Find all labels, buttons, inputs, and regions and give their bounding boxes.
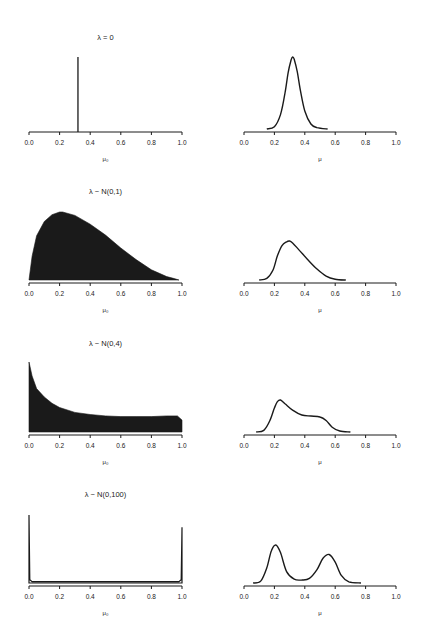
x-tick-label: 0.8 [361,593,370,600]
x-tick-label: 1.0 [177,593,186,600]
x-tick-label: 0.4 [300,442,309,449]
x-tick-label: 0.6 [116,290,125,297]
panel-row1-left: λ = 00.00.20.40.60.81.0μ₀ [24,33,186,162]
x-axis: 0.00.20.40.60.81.0μ [239,132,400,162]
x-tick-label: 0.4 [86,290,95,297]
density-curve [267,57,328,129]
x-tick-label: 0.6 [116,593,125,600]
panel-row4-left: λ ~ N(0,100)0.00.20.40.60.81.0μ₀ [24,490,186,616]
x-axis-label: μ [318,156,322,162]
x-tick-label: 0.6 [331,442,340,449]
x-axis-label: μ [318,459,322,465]
x-tick-label: 0.0 [24,593,33,600]
x-tick-label: 1.0 [391,442,400,449]
x-axis-label: μ₀ [103,459,109,465]
x-tick-label: 0.4 [86,593,95,600]
panel-row4-right: 0.00.20.40.60.81.0μ [239,545,400,616]
x-tick-label: 0.6 [331,593,340,600]
x-tick-label: 0.8 [361,139,370,146]
x-tick-label: 0.0 [24,139,33,146]
x-tick-label: 0.0 [239,139,248,146]
x-axis-label: μ₀ [103,307,109,313]
histogram-fill [29,362,182,432]
x-tick-label: 0.8 [361,290,370,297]
x-tick-label: 0.6 [116,139,125,146]
panel-title: λ ~ N(0,4) [89,339,123,348]
density-curve [253,545,361,583]
x-tick-label: 0.4 [300,290,309,297]
histogram-fill [29,212,179,280]
x-tick-label: 0.0 [239,593,248,600]
x-tick-label: 0.2 [55,593,64,600]
x-tick-label: 0.8 [361,442,370,449]
x-tick-label: 1.0 [177,139,186,146]
x-tick-label: 0.2 [270,593,279,600]
x-tick-label: 0.0 [239,442,248,449]
panel-title: λ ~ N(0,100) [85,490,127,499]
x-axis-label: μ₀ [103,610,109,616]
x-tick-label: 0.4 [86,139,95,146]
panel-row2-left: λ ~ N(0,1)0.00.20.40.60.81.0μ₀ [24,187,186,313]
x-tick-label: 0.2 [270,290,279,297]
x-tick-label: 0.4 [86,442,95,449]
x-axis: 0.00.20.40.60.81.0μ₀ [24,132,186,162]
density-curve [256,400,350,432]
panel-title: λ ~ N(0,1) [89,187,123,196]
x-axis: 0.00.20.40.60.81.0μ [239,283,400,313]
x-tick-label: 1.0 [391,139,400,146]
x-tick-label: 1.0 [177,442,186,449]
panel-row3-right: 0.00.20.40.60.81.0μ [239,400,400,465]
x-tick-label: 0.8 [147,290,156,297]
x-tick-label: 1.0 [391,593,400,600]
x-tick-label: 0.2 [55,139,64,146]
x-tick-label: 0.2 [55,442,64,449]
x-tick-label: 0.0 [24,442,33,449]
x-tick-label: 0.6 [331,290,340,297]
x-axis: 0.00.20.40.60.81.0μ₀ [24,283,186,313]
x-tick-label: 0.8 [147,593,156,600]
x-axis-label: μ₀ [103,156,109,162]
panel-title: λ = 0 [97,33,113,42]
x-tick-label: 0.2 [55,290,64,297]
x-axis: 0.00.20.40.60.81.0μ₀ [24,586,186,616]
x-axis: 0.00.20.40.60.81.0μ [239,586,400,616]
x-tick-label: 0.6 [331,139,340,146]
histogram-fill [29,515,182,583]
x-tick-label: 1.0 [177,290,186,297]
x-tick-label: 0.4 [300,139,309,146]
x-axis-label: μ [318,610,322,616]
figure: λ = 00.00.20.40.60.81.0μ₀0.00.20.40.60.8… [0,0,424,644]
x-tick-label: 0.4 [300,593,309,600]
panel-row1-right: 0.00.20.40.60.81.0μ [239,57,400,162]
x-axis: 0.00.20.40.60.81.0μ [239,435,400,465]
x-axis: 0.00.20.40.60.81.0μ₀ [24,435,186,465]
x-tick-label: 0.0 [239,290,248,297]
panel-row3-left: λ ~ N(0,4)0.00.20.40.60.81.0μ₀ [24,339,186,465]
x-axis-label: μ [318,307,322,313]
x-tick-label: 0.2 [270,442,279,449]
chart-grid: λ = 00.00.20.40.60.81.0μ₀0.00.20.40.60.8… [0,0,424,644]
x-tick-label: 0.8 [147,139,156,146]
x-tick-label: 1.0 [391,290,400,297]
panel-row2-right: 0.00.20.40.60.81.0μ [239,241,400,313]
x-tick-label: 0.0 [24,290,33,297]
x-tick-label: 0.2 [270,139,279,146]
x-tick-label: 0.6 [116,442,125,449]
x-tick-label: 0.8 [147,442,156,449]
density-curve [259,241,346,280]
